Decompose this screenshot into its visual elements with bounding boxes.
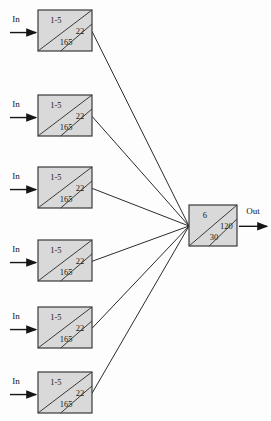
input-label-2: In xyxy=(12,99,20,109)
output-label: Out xyxy=(246,206,260,216)
input-node-6-bottom-value: 165 xyxy=(60,399,73,409)
connector-line-3 xyxy=(92,188,189,226)
input-arrows-group xyxy=(10,33,36,395)
input-node-3-right-value: 22 xyxy=(76,183,85,193)
input-node-2-top-value: 1-5 xyxy=(50,100,61,110)
input-label-3: In xyxy=(12,171,20,181)
diagram-canvas: 1-5221651-5221651-5221651-5221651-522165… xyxy=(0,0,271,421)
connector-line-2 xyxy=(92,116,189,226)
output-node-top-value: 6 xyxy=(203,210,207,220)
nodes-group: 1-5221651-5221651-5221651-5221651-522165… xyxy=(38,10,237,413)
input-node-1-top-value: 1-5 xyxy=(50,15,61,25)
input-label-4: In xyxy=(12,244,20,254)
input-node-2-right-value: 22 xyxy=(76,111,85,121)
input-node-3[interactable]: 1-522165 xyxy=(38,167,92,208)
network-diagram: 1-5221651-5221651-5221651-5221651-522165… xyxy=(0,0,271,421)
input-label-5: In xyxy=(12,311,20,321)
output-node[interactable]: 612030 xyxy=(189,205,237,246)
input-node-1-bottom-value: 165 xyxy=(60,37,73,47)
input-node-4-bottom-value: 165 xyxy=(60,267,73,277)
input-node-1[interactable]: 1-522165 xyxy=(38,10,92,51)
input-node-5[interactable]: 1-522165 xyxy=(38,307,92,348)
input-label-6: In xyxy=(12,376,20,386)
connector-line-1 xyxy=(92,31,189,226)
input-node-4-top-value: 1-5 xyxy=(50,245,61,255)
input-node-6-right-value: 22 xyxy=(76,388,85,398)
input-node-3-top-value: 1-5 xyxy=(50,172,61,182)
input-node-2-bottom-value: 165 xyxy=(60,122,73,132)
input-label-1: In xyxy=(12,14,20,24)
output-node-bottom-value: 30 xyxy=(210,232,219,242)
input-node-1-right-value: 22 xyxy=(76,26,85,36)
connector-lines-group xyxy=(92,31,189,393)
input-node-3-bottom-value: 165 xyxy=(60,194,73,204)
input-node-2[interactable]: 1-522165 xyxy=(38,95,92,136)
connector-line-6 xyxy=(92,226,189,393)
input-node-5-bottom-value: 165 xyxy=(60,334,73,344)
output-node-right-value: 120 xyxy=(220,221,233,231)
input-node-5-right-value: 22 xyxy=(76,323,85,333)
connector-line-4 xyxy=(92,226,189,261)
input-node-6-top-value: 1-5 xyxy=(50,377,61,387)
input-node-4[interactable]: 1-522165 xyxy=(38,240,92,281)
input-node-5-top-value: 1-5 xyxy=(50,312,61,322)
input-node-6[interactable]: 1-522165 xyxy=(38,372,92,413)
input-node-4-right-value: 22 xyxy=(76,256,85,266)
connector-line-5 xyxy=(92,226,189,328)
